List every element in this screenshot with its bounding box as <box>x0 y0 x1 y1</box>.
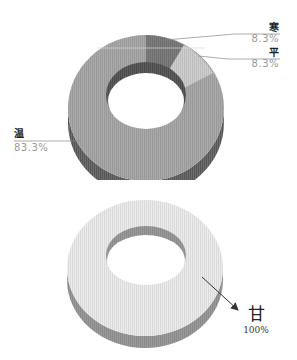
donut-hole <box>108 73 184 129</box>
label-warm-pct: 83.3% <box>14 142 48 153</box>
label-neutral-pct: 8.3% <box>252 58 279 69</box>
donut-chart-top: 寒 8.3% 平 8.3% 温 83.3% <box>0 0 297 180</box>
label-cold: 寒 8.3% <box>252 22 279 44</box>
label-warm-name: 温 <box>14 128 48 139</box>
label-neutral: 平 8.3% <box>252 47 279 69</box>
label-cold-name: 寒 <box>252 22 279 33</box>
label-sweet: 甘 100% <box>240 304 272 336</box>
label-warm: 温 83.3% <box>14 128 48 153</box>
label-cold-pct: 8.3% <box>252 33 279 44</box>
label-sweet-pct: 100% <box>240 325 272 336</box>
donut-chart-bottom: 甘 100% <box>0 180 297 360</box>
label-neutral-name: 平 <box>252 47 279 58</box>
label-sweet-name: 甘 <box>240 304 272 324</box>
donut-hole-bottom <box>107 235 185 285</box>
